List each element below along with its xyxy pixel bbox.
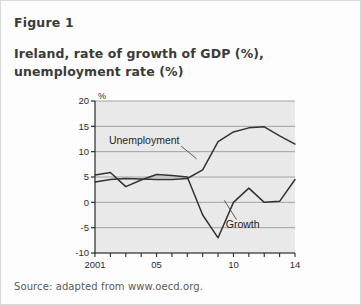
x-tick-label: 14: [290, 259, 301, 270]
x-tick-label: 05: [151, 259, 162, 270]
y-tick-label: 5: [84, 171, 89, 182]
figure-title: Ireland, rate of growth of GDP (%), unem…: [14, 45, 344, 81]
y-tick-label: 0: [84, 197, 89, 208]
y-tick-label: 10: [78, 146, 89, 157]
source-note: Source: adapted from www.oecd.org.: [14, 281, 203, 292]
chart-svg: 20151050-5-10%2001051014UnemploymentGrow…: [71, 89, 356, 274]
figure-title-line-1: Ireland, rate of growth of GDP (%),: [14, 45, 344, 63]
y-axis-unit-label: %: [98, 91, 106, 101]
line-chart: 20151050-5-10%2001051014UnemploymentGrow…: [71, 89, 356, 274]
x-tick-label: 2001: [84, 259, 105, 270]
series-annotation-unemployment: Unemployment: [109, 134, 180, 146]
x-tick-label: 10: [228, 259, 239, 270]
figure-card: Figure 1 Ireland, rate of growth of GDP …: [0, 0, 361, 305]
y-tick-label: 20: [78, 95, 89, 106]
y-tick-label: -10: [75, 247, 89, 258]
series-annotation-growth: Growth: [226, 218, 260, 230]
y-tick-label: 15: [78, 121, 89, 132]
figure-label: Figure 1: [14, 15, 74, 30]
figure-title-line-2: unemployment rate (%): [14, 63, 344, 81]
y-tick-label: -5: [81, 222, 89, 233]
